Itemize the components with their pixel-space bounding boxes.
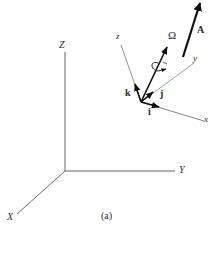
j-label: j (160, 89, 163, 99)
X-axis-label: X (7, 212, 13, 222)
z-axis-label: z (116, 32, 120, 41)
rotating-frame-diagram: Z Y X z y x k j i Ω A (a) (0, 0, 214, 255)
i-label: i (148, 107, 151, 117)
Y-axis-label: Y (179, 165, 185, 175)
x-axis-label: x (204, 115, 208, 124)
figure-caption: (a) (101, 211, 112, 221)
k-label: k (125, 88, 131, 98)
y-axis-label: y (193, 54, 197, 63)
body-frame (121, 45, 204, 121)
omega-label: Ω (168, 30, 176, 41)
A-label: A (197, 25, 204, 35)
rotation-tick (163, 62, 167, 64)
Z-axis-label: Z (59, 40, 65, 50)
k-vector (135, 84, 141, 102)
X-axis (17, 171, 65, 214)
inertial-frame (17, 52, 175, 214)
